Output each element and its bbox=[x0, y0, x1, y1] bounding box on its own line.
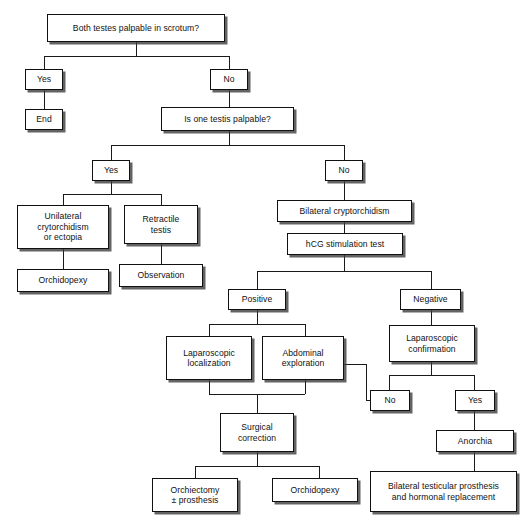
node-end[interactable]: End bbox=[25, 109, 63, 130]
connector bbox=[257, 271, 258, 289]
connector bbox=[63, 194, 64, 205]
connector bbox=[44, 56, 45, 69]
connector bbox=[474, 375, 475, 390]
node-retractile-testis[interactable]: Retractile testis bbox=[124, 205, 198, 244]
node-laparoscopic-confirmation[interactable]: Laparoscopic confirmation bbox=[389, 325, 475, 362]
connector bbox=[63, 249, 64, 269]
node-positive[interactable]: Positive bbox=[228, 289, 286, 310]
node-is-one-testis-palpable[interactable]: Is one testis palpable? bbox=[161, 107, 294, 131]
node-bilateral-prosthesis-hormonal[interactable]: Bilateral testicular prosthesis and horm… bbox=[370, 471, 517, 512]
connector bbox=[209, 324, 305, 325]
node-observation[interactable]: Observation bbox=[119, 264, 203, 287]
node-anorchia[interactable]: Anorchia bbox=[436, 430, 514, 452]
node-hcg-stimulation-test[interactable]: hCG stimulation test bbox=[287, 233, 403, 255]
connector bbox=[257, 310, 258, 324]
connector bbox=[136, 42, 137, 56]
node-no-level2[interactable]: No bbox=[325, 160, 363, 181]
connector bbox=[344, 181, 345, 200]
connector bbox=[344, 255, 345, 271]
connector bbox=[431, 310, 432, 325]
connector bbox=[195, 466, 196, 478]
connector bbox=[229, 56, 230, 69]
figure-caption bbox=[4, 518, 521, 530]
node-abdominal-exploration[interactable]: Abdominal exploration bbox=[262, 336, 344, 380]
connector bbox=[161, 244, 162, 264]
connector bbox=[111, 145, 344, 146]
connector bbox=[111, 145, 112, 160]
connector bbox=[319, 466, 320, 478]
connector bbox=[111, 181, 112, 194]
connector bbox=[209, 380, 210, 394]
connector bbox=[229, 90, 230, 107]
node-orchidopexy-left[interactable]: Orchidopexy bbox=[17, 269, 109, 292]
connector bbox=[305, 380, 306, 394]
connector bbox=[195, 466, 319, 467]
flowchart-canvas: Both testes palpable in scrotum? Yes No … bbox=[0, 0, 525, 530]
node-bilateral-cryptorchidism[interactable]: Bilateral cryptorchidism bbox=[277, 200, 412, 222]
connector bbox=[431, 362, 432, 375]
node-surgical-correction[interactable]: Surgical correction bbox=[220, 413, 294, 452]
node-yes-laparoscopic-confirmation[interactable]: Yes bbox=[455, 390, 495, 411]
node-no-level1[interactable]: No bbox=[210, 69, 248, 90]
connector bbox=[389, 375, 474, 376]
node-no-laparoscopic-confirmation[interactable]: No bbox=[370, 390, 410, 411]
connector bbox=[431, 271, 432, 289]
node-orchiectomy-prosthesis[interactable]: Orchiectomy ± prosthesis bbox=[152, 478, 238, 512]
connector bbox=[305, 324, 306, 336]
connector bbox=[229, 131, 230, 145]
connector bbox=[366, 364, 367, 401]
connector bbox=[209, 324, 210, 336]
connector bbox=[161, 194, 162, 205]
node-negative[interactable]: Negative bbox=[400, 289, 461, 310]
node-orchidopexy-right[interactable]: Orchidopexy bbox=[272, 478, 358, 502]
connector bbox=[257, 452, 258, 466]
node-yes-level2[interactable]: Yes bbox=[92, 160, 130, 181]
connector bbox=[389, 375, 390, 390]
connector bbox=[44, 56, 230, 57]
node-unilateral-cryptorchidism-ectopia[interactable]: Unilateral crytorchidism or ectopia bbox=[17, 205, 109, 249]
connector bbox=[344, 222, 345, 233]
connector bbox=[257, 394, 258, 413]
connector bbox=[257, 271, 431, 272]
connector bbox=[344, 145, 345, 160]
connector bbox=[474, 411, 475, 430]
connector bbox=[474, 452, 475, 471]
node-laparoscopic-localization[interactable]: Laparoscopic localization bbox=[166, 336, 252, 380]
connector bbox=[44, 90, 45, 109]
node-yes-level1[interactable]: Yes bbox=[25, 69, 63, 90]
node-both-testes-palpable[interactable]: Both testes palpable in scrotum? bbox=[47, 14, 225, 42]
connector bbox=[63, 194, 162, 195]
